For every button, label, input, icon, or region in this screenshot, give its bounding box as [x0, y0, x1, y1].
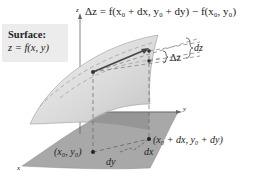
z-axis-label: z: [75, 6, 79, 14]
point-shifted-label: (x₀ + dx, y₀ + dy): [153, 134, 224, 146]
delta-z-label: Δz: [170, 52, 181, 63]
dz-label: dz: [194, 42, 203, 53]
dz-brace: [186, 38, 193, 58]
y-axis-arrow-icon: [176, 110, 182, 114]
dx-label: dx: [144, 146, 154, 157]
surface-point-dz: [147, 49, 151, 53]
plane-point-base: [91, 150, 95, 154]
point-base-label: (x₀, y₀): [54, 146, 82, 158]
surface-label-equation: z = f(x, y): [8, 41, 68, 54]
plane-point-shifted: [147, 137, 151, 141]
surface-point-dz2: [147, 59, 151, 63]
surface-label-title: Surface:: [8, 28, 68, 41]
x-axis-label: x: [16, 164, 21, 172]
formula-label: Δz = f(x₀ + dx, y₀ + dy) − f(x₀, y₀): [85, 5, 236, 18]
surface-label-box: Surface: z = f(x, y): [2, 24, 68, 62]
surface-point-base: [91, 70, 95, 74]
y-axis-label: y: [182, 105, 187, 113]
dy-label: dy: [106, 156, 116, 167]
tangent-line-3: [149, 42, 200, 51]
differential-diagram: Δz = f(x₀ + dx, y₀ + dy) − f(x₀, y₀) z y…: [0, 0, 268, 179]
